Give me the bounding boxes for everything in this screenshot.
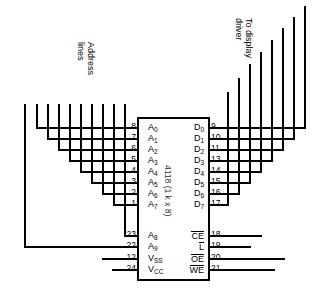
pin-label-right-10: OE — [168, 254, 204, 264]
pin-label-right-6: D6 — [168, 189, 204, 198]
trace-d0 — [209, 6, 305, 128]
pin-number-right-3: 13 — [211, 155, 229, 164]
pin-number-right-2: 11 — [211, 144, 229, 153]
pin-number-right-11: 21 — [211, 264, 229, 273]
pin-label-left-4: A4 — [148, 167, 158, 176]
pin-number-right-0: 9 — [211, 122, 229, 131]
pin-number-left-3: 5 — [118, 155, 136, 164]
pin-number-right-9: 19 — [211, 241, 229, 250]
pin-label-right-8: CE — [168, 231, 204, 241]
address-lines-label-line1: Address — [86, 42, 96, 75]
pin-number-left-1: 7 — [118, 133, 136, 142]
pin-label-right-1: D1 — [168, 134, 204, 143]
pin-label-right-9: L — [168, 242, 204, 252]
pin-label-right-11: WE — [168, 265, 204, 275]
pin-number-left-11: 24 — [118, 264, 136, 273]
pin-label-left-8: A8 — [148, 231, 158, 240]
pin-number-left-0: 8 — [118, 122, 136, 131]
pin-label-right-7: D7 — [168, 200, 204, 209]
pin-number-right-8: 18 — [211, 230, 229, 239]
pin-number-left-6: 2 — [118, 188, 136, 197]
pin-number-right-7: 17 — [211, 199, 229, 208]
pin-number-left-9: 22 — [118, 241, 136, 250]
pin-label-right-4: D4 — [168, 167, 204, 176]
pin-label-left-2: A2 — [148, 145, 158, 154]
pin-number-right-1: 10 — [211, 133, 229, 142]
pin-label-left-0: A0 — [148, 123, 158, 132]
pin-number-left-5: 3 — [118, 177, 136, 186]
pin-number-left-8: 23 — [118, 230, 136, 239]
pin-label-left-6: A6 — [148, 189, 158, 198]
pin-label-right-5: D5 — [168, 178, 204, 187]
pin-number-left-4: 4 — [118, 166, 136, 175]
pin-number-right-4: 14 — [211, 166, 229, 175]
pin-number-left-2: 6 — [118, 144, 136, 153]
pin-number-right-6: 16 — [211, 188, 229, 197]
pin-label-left-10: VSS — [148, 254, 163, 263]
pin-label-left-7: A7 — [148, 200, 158, 209]
pin-number-left-7: 1 — [118, 199, 136, 208]
display-driver-label-line2: driver — [234, 18, 244, 41]
pin-number-right-5: 15 — [211, 177, 229, 186]
pin-label-right-0: D0 — [168, 123, 204, 132]
pin-label-right-2: D2 — [168, 145, 204, 154]
display-driver-label-line1: To display — [244, 18, 254, 58]
pin-label-right-3: D3 — [168, 156, 204, 165]
pin-label-left-1: A1 — [148, 134, 158, 143]
diagram-canvas: Address lines To display driver 4118 (1 … — [0, 0, 322, 304]
pin-number-left-10: 12 — [118, 253, 136, 262]
address-lines-label-line2: lines — [76, 42, 86, 61]
pin-label-left-11: VCC — [148, 265, 163, 274]
pin-label-left-5: A5 — [148, 178, 158, 187]
pin-label-left-3: A3 — [148, 156, 158, 165]
pin-label-left-9: A9 — [148, 242, 158, 251]
pin-number-right-10: 20 — [211, 253, 229, 262]
